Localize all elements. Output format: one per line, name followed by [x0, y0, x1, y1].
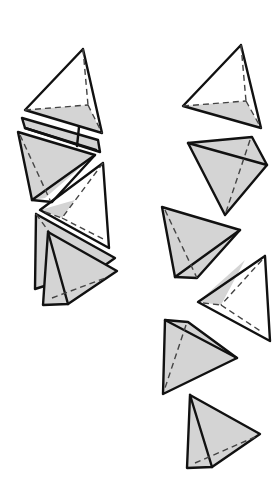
tetrahedron-right-4 — [198, 256, 270, 341]
tetrahedron-left-1 — [25, 49, 102, 133]
tetrahedron-right-3 — [162, 207, 240, 278]
tetrahedron-right-5 — [163, 320, 237, 394]
tetrahedron-right-2 — [188, 137, 267, 215]
tetrahedron-right-6 — [187, 395, 260, 468]
tetrahedron-right-1 — [183, 45, 261, 128]
tetrahedra-figure — [0, 0, 279, 493]
